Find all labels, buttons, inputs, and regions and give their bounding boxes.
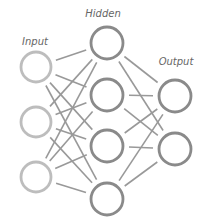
output-node-1 (159, 80, 191, 112)
edge-input3-hidden3 (55, 155, 87, 169)
edges-group (46, 50, 163, 193)
hidden-node-2 (91, 79, 123, 111)
output-layer-label: Output (159, 56, 195, 67)
edge-input3-hidden2 (50, 112, 93, 162)
edge-input1-hidden4 (46, 86, 97, 180)
edge-input3-hidden1 (46, 62, 97, 158)
hidden-node-1 (91, 27, 123, 59)
edge-input2-hidden2 (56, 103, 87, 115)
edge-input3-hidden4 (56, 183, 86, 192)
input-node-2 (21, 107, 51, 137)
hidden-node-3 (91, 130, 123, 162)
output-node-2 (159, 133, 191, 165)
input-layer-label: Input (22, 36, 49, 47)
network-canvas: Input Hidden Output (0, 0, 205, 224)
edge-hidden4-output1 (119, 114, 163, 180)
hidden-node-4 (91, 183, 123, 215)
neural-network-diagram: Input Hidden Output (0, 0, 205, 224)
hidden-layer-label: Hidden (85, 8, 120, 19)
edge-input1-hidden1 (56, 50, 86, 60)
input-node-3 (21, 162, 51, 192)
edge-input1-hidden2 (56, 75, 87, 87)
input-node-1 (21, 52, 51, 82)
